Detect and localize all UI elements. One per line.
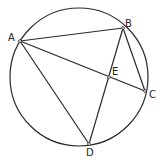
point-label-d: D	[86, 148, 94, 158]
points	[19, 27, 147, 146]
segment-bc	[123, 28, 145, 91]
segment-ab	[20, 28, 123, 41]
segment-ad	[20, 41, 89, 144]
point-b	[122, 27, 125, 30]
segment-ac	[20, 41, 145, 91]
point-label-e: E	[112, 67, 118, 77]
point-a	[19, 40, 22, 43]
point-label-c: C	[149, 90, 156, 100]
point-e	[108, 76, 111, 79]
geometry-diagram: A B C D E	[0, 0, 165, 165]
point-c	[144, 90, 147, 93]
point-label-b: B	[125, 19, 132, 29]
point-label-a: A	[8, 33, 15, 43]
segment-bd	[89, 28, 123, 144]
diagram-canvas	[0, 0, 165, 165]
point-d	[88, 143, 91, 146]
